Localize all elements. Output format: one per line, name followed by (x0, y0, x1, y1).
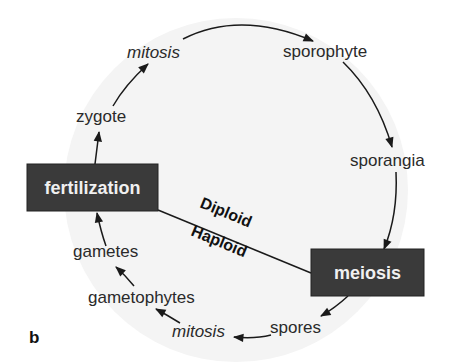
meiosis-label: meiosis (334, 263, 401, 283)
spores-label: spores (270, 318, 321, 337)
zygote-label: zygote (76, 107, 126, 126)
gametes-label: gametes (73, 242, 138, 261)
gametophytes-label: gametophytes (88, 288, 195, 307)
fertilization-box: fertilization (27, 164, 158, 211)
fertilization-label: fertilization (44, 178, 140, 198)
life-cycle-diagram: Diploid Haploid fertilization meiosis zy… (0, 0, 464, 362)
sporophyte-label: sporophyte (283, 42, 367, 61)
panel-label: b (29, 328, 39, 347)
sporangia-label: sporangia (350, 151, 425, 170)
mitosis-top-label: mitosis (127, 43, 180, 62)
diagram-canvas: Diploid Haploid fertilization meiosis zy… (0, 0, 464, 362)
meiosis-box: meiosis (311, 249, 424, 296)
mitosis-bottom-label: mitosis (172, 322, 225, 341)
